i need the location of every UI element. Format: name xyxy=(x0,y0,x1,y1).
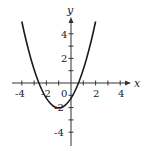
x-tick-label: 4 xyxy=(118,88,124,99)
parabola-curve xyxy=(22,22,96,108)
y-axis xyxy=(69,17,74,146)
x-tick-label: 0 xyxy=(61,88,67,99)
x-tick-label: -4 xyxy=(15,88,25,99)
y-tick-label: 2 xyxy=(61,53,67,64)
y-tick-label: -2 xyxy=(54,102,64,113)
graph: x y -4 -2 0 2 4 4 2 -2 -4 xyxy=(0,0,145,151)
x-axis-label: x xyxy=(134,77,141,90)
y-axis-label: y xyxy=(66,4,74,17)
x-axis-arrow-icon xyxy=(125,81,131,86)
y-axis-arrow-icon xyxy=(69,17,74,23)
y-tick-label: -4 xyxy=(54,127,64,138)
x-tick-label: -2 xyxy=(41,88,51,99)
x-tick-label: 2 xyxy=(93,88,99,99)
y-tick-label: 4 xyxy=(61,29,67,40)
